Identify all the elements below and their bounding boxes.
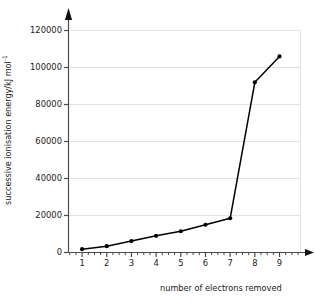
data-series-line [82,56,279,249]
gridlines [69,31,301,216]
y-axis-ticks [64,31,69,253]
ionisation-energy-line-chart: successive ionisation energy/kJ mol-1 02… [0,0,315,302]
plot-area [0,0,315,302]
axis-lines [65,8,314,256]
data-series-markers [80,54,282,251]
x-axis-ticks [70,253,298,258]
